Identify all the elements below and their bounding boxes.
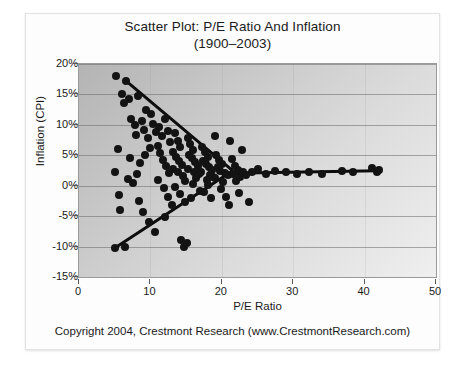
chart-title-block: Scatter Plot: P/E Ratio And Inflation (1… (25, 18, 440, 52)
x-tick-label: 40 (344, 285, 384, 297)
data-point (176, 143, 184, 151)
y-tick-label: -10% (32, 240, 78, 252)
data-point (238, 146, 246, 154)
y-tick-mark (73, 215, 78, 216)
data-point (132, 131, 140, 139)
data-point (160, 184, 168, 192)
data-point (318, 170, 326, 178)
x-tick-label: 0 (58, 285, 98, 297)
gridline (79, 64, 436, 65)
data-point (187, 194, 195, 202)
data-point (115, 191, 123, 199)
data-point (111, 244, 119, 252)
data-point (136, 159, 144, 167)
data-point (133, 170, 141, 178)
data-point (226, 137, 234, 145)
data-point (112, 72, 120, 80)
x-tick-mark (221, 279, 222, 284)
vertical-gridline (150, 64, 151, 277)
data-point (116, 206, 124, 214)
data-point (111, 168, 119, 176)
data-point (338, 167, 346, 175)
data-point (121, 243, 129, 251)
data-point (189, 180, 197, 188)
data-point (176, 190, 184, 198)
data-point (147, 110, 155, 118)
data-point (144, 134, 152, 142)
y-tick-mark (73, 63, 78, 64)
data-point (164, 193, 172, 201)
data-point (207, 194, 215, 202)
vertical-gridline (436, 64, 437, 277)
data-point (151, 228, 159, 236)
data-point (254, 165, 262, 173)
data-point (200, 188, 208, 196)
data-point (161, 213, 169, 221)
x-tick-mark (364, 279, 365, 284)
plot-area (78, 63, 437, 278)
data-point (138, 117, 146, 125)
data-point (126, 154, 134, 162)
data-point (140, 126, 148, 134)
chart-subtitle: (1900–2003) (25, 35, 440, 52)
scatter-plot-figure: Scatter Plot: P/E Ratio And Inflation (1… (0, 0, 465, 367)
data-point (168, 201, 176, 209)
data-point (183, 239, 191, 247)
data-point (349, 168, 357, 176)
gridline (79, 216, 436, 217)
y-tick-mark (73, 185, 78, 186)
data-point (155, 123, 163, 131)
x-tick-mark (292, 279, 293, 284)
data-point (134, 92, 142, 100)
y-axis-title: Inflation (CPI) (34, 51, 46, 211)
x-axis-title: P/E Ratio (78, 300, 437, 312)
data-point (154, 176, 162, 184)
x-tick-label: 30 (272, 285, 312, 297)
data-point (282, 168, 290, 176)
data-point (271, 167, 279, 175)
y-tick-mark (73, 246, 78, 247)
data-point (211, 132, 219, 140)
x-tick-label: 20 (201, 285, 241, 297)
x-tick-label: 10 (129, 285, 169, 297)
data-point (245, 198, 253, 206)
data-point (293, 170, 301, 178)
data-point (305, 168, 313, 176)
x-tick-label: 50 (415, 285, 455, 297)
data-point (235, 189, 243, 197)
y-tick-mark (73, 93, 78, 94)
copyright-note: Copyright 2004, Crestmont Research (www.… (25, 325, 440, 337)
y-tick-mark (73, 154, 78, 155)
gridline (79, 94, 436, 95)
data-point (262, 170, 270, 178)
chart-title: Scatter Plot: P/E Ratio And Inflation (25, 18, 440, 35)
data-point (217, 185, 225, 193)
data-point (375, 166, 383, 174)
data-point (161, 115, 169, 123)
data-point (225, 201, 233, 209)
data-point (232, 177, 240, 185)
x-tick-mark (149, 279, 150, 284)
data-point (120, 99, 128, 107)
y-tick-mark (73, 124, 78, 125)
gridline (79, 277, 436, 278)
y-tick-mark (73, 276, 78, 277)
data-point (197, 168, 205, 176)
y-tick-label: -15% (32, 270, 78, 282)
data-point (114, 145, 122, 153)
gridline (79, 247, 436, 248)
data-point (141, 151, 149, 159)
x-tick-mark (435, 279, 436, 284)
x-tick-mark (78, 279, 79, 284)
data-point (135, 197, 143, 205)
